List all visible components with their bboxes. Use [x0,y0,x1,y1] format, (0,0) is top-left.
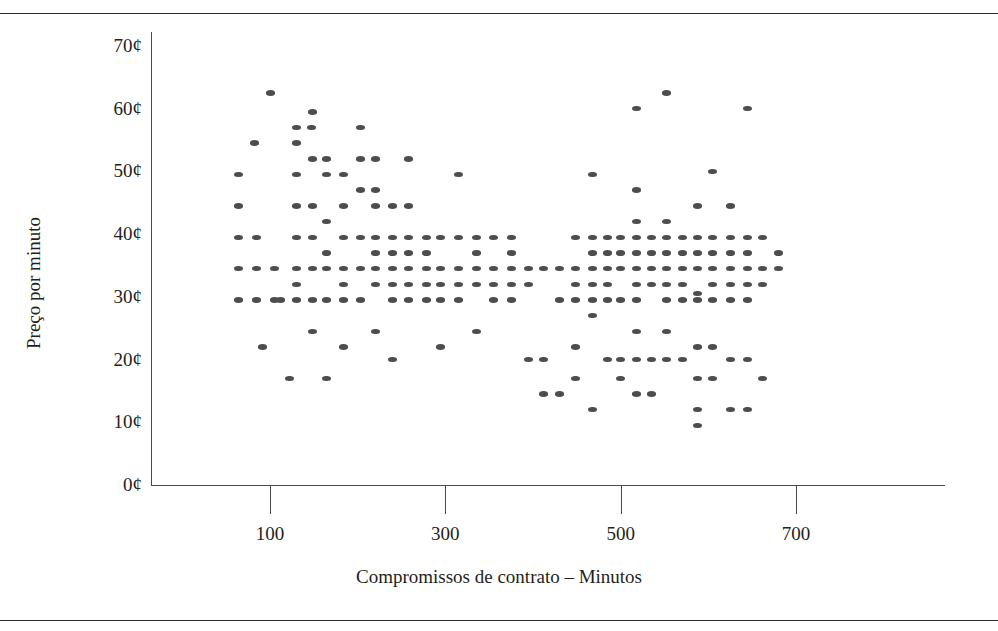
data-point [371,282,380,288]
data-point [339,344,348,350]
data-point [693,407,702,413]
data-point [662,219,671,225]
data-point [388,297,397,303]
data-point [678,266,687,272]
y-tick-label-30: 30¢ [82,287,142,306]
data-point [234,297,243,303]
data-point [356,125,365,131]
data-point [632,106,641,112]
data-point [743,297,752,303]
data-point [678,235,687,241]
data-point [356,156,365,162]
data-point [708,344,717,350]
data-point [632,235,641,241]
data-point [632,250,641,256]
data-point [726,407,735,413]
data-point [388,250,397,256]
y-tick-label-40: 40¢ [82,224,142,243]
data-point [292,125,301,131]
data-point [616,235,625,241]
plot-data-area [152,32,799,485]
data-point [266,90,275,96]
x-tick-mark-700 [796,486,797,514]
data-point [436,235,445,241]
data-point [588,266,597,272]
data-point [234,266,243,272]
data-point [588,407,597,413]
data-point [662,282,671,288]
data-point [555,266,564,272]
data-point [758,235,767,241]
data-point [555,297,564,303]
data-point [356,297,365,303]
data-point [252,266,261,272]
data-point [571,376,580,382]
data-point [422,282,431,288]
data-point [472,250,481,256]
data-point [524,282,533,288]
top-divider-rule [0,13,998,14]
data-point [422,297,431,303]
data-point [662,90,671,96]
data-point [404,250,413,256]
data-point [616,297,625,303]
data-point [571,282,580,288]
data-point [292,235,301,241]
data-point [524,357,533,363]
data-point [662,329,671,335]
data-point [708,297,717,303]
data-point [539,357,548,363]
y-tick-label-70: 70¢ [82,36,142,55]
data-point [285,376,294,382]
data-point [758,376,767,382]
data-point [308,203,317,209]
data-point [371,235,380,241]
data-point [708,376,717,382]
data-point [588,282,597,288]
data-point [322,376,331,382]
data-point [507,282,516,288]
data-point [270,266,279,272]
data-point [555,391,564,397]
y-tick-label-0: 0¢ [82,475,142,494]
x-axis-title: Compromissos de contrato – Minutos [0,566,998,588]
data-point [726,250,735,256]
data-point [774,266,783,272]
data-point [404,297,413,303]
data-point [292,203,301,209]
x-tick-mark-500 [621,486,622,514]
data-point [388,266,397,272]
data-point [388,203,397,209]
data-point [422,250,431,256]
data-point [292,266,301,272]
data-point [708,235,717,241]
data-point [292,282,301,288]
data-point [743,282,752,288]
data-point [472,282,481,288]
data-point [726,266,735,272]
data-point [662,297,671,303]
data-point [693,423,702,429]
scatter-plot-figure: 0¢10¢20¢30¢40¢50¢60¢70¢ 100300500700 Com… [0,0,998,631]
data-point [571,266,580,272]
data-point [292,140,301,146]
data-point [662,266,671,272]
data-point [603,235,612,241]
data-point [322,297,331,303]
data-point [507,266,516,272]
data-point [454,297,463,303]
data-point [507,250,516,256]
data-point [322,156,331,162]
data-point [436,282,445,288]
y-tick-label-50: 50¢ [82,161,142,180]
data-point [388,282,397,288]
data-point [743,357,752,363]
data-point [708,266,717,272]
data-point [436,297,445,303]
data-point [708,169,717,175]
y-tick-label-60: 60¢ [82,99,142,118]
data-point [308,329,317,335]
x-tick-label-500: 500 [581,524,661,544]
data-point [726,282,735,288]
data-point [507,297,516,303]
